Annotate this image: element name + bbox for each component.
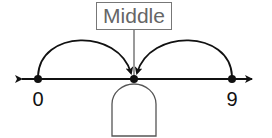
point-midpoint <box>130 75 138 83</box>
tick-label-9: 9 <box>226 88 237 111</box>
middle-callout-label: Middle <box>96 2 172 30</box>
point-9 <box>228 75 236 83</box>
jump-arc-right <box>137 40 232 76</box>
answer-box[interactable] <box>112 84 156 136</box>
tick-label-0: 0 <box>32 88 43 111</box>
jump-arc-left <box>38 40 131 76</box>
point-0 <box>34 75 42 83</box>
